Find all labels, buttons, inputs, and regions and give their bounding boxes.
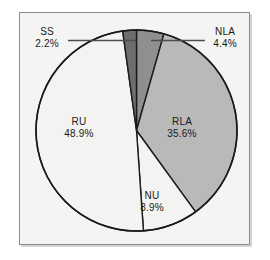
pie-label-ru: RU 48.9% bbox=[57, 116, 101, 139]
pie-label-nla-value: 4.4% bbox=[206, 38, 244, 50]
pie-label-ss-value: 2.2% bbox=[30, 38, 64, 50]
pie-label-nla-name: NLA bbox=[206, 26, 244, 38]
pie-label-ru-value: 48.9% bbox=[57, 128, 101, 140]
pie-label-nla: NLA 4.4% bbox=[206, 26, 244, 49]
pie-label-ru-name: RU bbox=[57, 116, 101, 128]
figure-root: SS 2.2% NLA 4.4% RU 48.9% RLA 35.6% NU 8… bbox=[0, 0, 270, 260]
pie-label-rla-name: RLA bbox=[160, 116, 204, 128]
pie-label-nu-name: NU bbox=[133, 190, 171, 202]
pie-label-rla: RLA 35.6% bbox=[160, 116, 204, 139]
pie-label-nu-value: 8.9% bbox=[133, 202, 171, 214]
pie-label-ss-name: SS bbox=[30, 26, 64, 38]
pie-label-nu: NU 8.9% bbox=[133, 190, 171, 213]
pie-label-ss: SS 2.2% bbox=[30, 26, 64, 49]
pie-label-rla-value: 35.6% bbox=[160, 128, 204, 140]
